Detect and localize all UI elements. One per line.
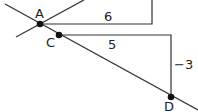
slope-triangle-upper — [40, 0, 152, 24]
rise-label-lower: −3 — [174, 57, 193, 72]
point-c — [56, 32, 63, 39]
label-a: A — [35, 6, 44, 21]
point-a — [37, 21, 44, 28]
line-acd — [5, 4, 198, 110]
label-c: C — [46, 35, 55, 50]
slope-diagram: A C D 6 5 −3 — [0, 0, 198, 112]
run-label-upper: 6 — [104, 9, 112, 24]
label-d: D — [164, 99, 174, 112]
run-label-lower: 5 — [108, 37, 116, 52]
line-through-a — [16, 0, 84, 37]
